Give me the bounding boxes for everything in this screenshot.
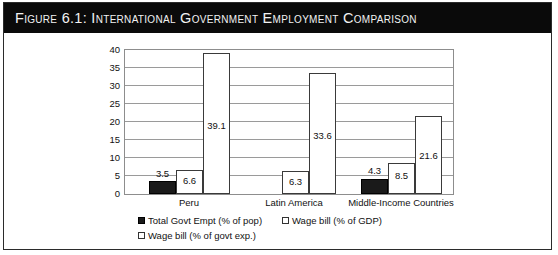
gridline-20 [125, 121, 453, 122]
y-tick-20: 20 [94, 116, 120, 127]
bar-mic-total-emp [361, 179, 388, 195]
bar-label-peru-total-emp: 3.5 [149, 168, 176, 179]
legend-item-wage-bill-govt-exp: Wage bill (% of govt exp.) [138, 230, 256, 241]
y-tick-15: 15 [94, 134, 120, 145]
x-category-peru: Peru [179, 197, 199, 208]
y-tick-5: 5 [94, 170, 120, 181]
figure-title-banner: Figure 6.1: International Government Emp… [4, 3, 551, 33]
gridline-35 [125, 67, 453, 68]
bar-label-latam-wage-gdp: 6.3 [282, 176, 309, 187]
chart-legend: Total Govt Empt (% of pop) Wage bill (% … [4, 215, 551, 249]
bar-label-mic-wage-gdp: 8.5 [388, 170, 415, 181]
legend-swatch-light-exp-icon [138, 232, 145, 239]
bar-label-mic-wage-exp: 21.6 [415, 150, 442, 161]
gridline-15 [125, 139, 453, 140]
legend-swatch-light-gdp-icon [282, 217, 289, 224]
bar-peru-total-emp [149, 181, 176, 194]
gridline-25 [125, 103, 453, 104]
y-tick-25: 25 [94, 98, 120, 109]
legend-label-wage-bill-gdp: Wage bill (% of GDP) [292, 215, 382, 226]
chart-canvas: 0 5 10 15 20 25 30 35 40 3.5 6.6 39.1 [4, 33, 551, 249]
legend-label-total-govt-emp: Total Govt Empt (% of pop) [148, 215, 262, 226]
x-category-middle-income: Middle-Income Countries [348, 197, 454, 208]
y-tick-30: 30 [94, 80, 120, 91]
y-tick-10: 10 [94, 152, 120, 163]
legend-item-total-govt-emp: Total Govt Empt (% of pop) [138, 215, 262, 226]
page-title: Figure 6.1: International Government Emp… [15, 10, 417, 26]
bar-label-peru-wage-gdp: 6.6 [176, 175, 203, 186]
legend-swatch-dark-icon [138, 217, 145, 224]
y-axis: 0 5 10 15 20 25 30 35 40 [90, 49, 120, 193]
bar-label-mic-total-emp: 4.3 [361, 165, 388, 176]
legend-item-wage-bill-gdp: Wage bill (% of GDP) [282, 215, 382, 226]
figure-container: Figure 6.1: International Government Emp… [3, 2, 552, 250]
gridline-30 [125, 85, 453, 86]
bar-label-latam-wage-exp: 33.6 [309, 130, 336, 141]
x-category-latin-america: Latin America [265, 197, 323, 208]
y-tick-0: 0 [94, 188, 120, 199]
legend-label-wage-bill-govt-exp: Wage bill (% of govt exp.) [148, 230, 256, 241]
plot-area: 3.5 6.6 39.1 6.3 33.6 4.3 8.5 21.6 [124, 49, 454, 195]
bar-label-peru-wage-exp: 39.1 [203, 120, 230, 131]
y-tick-35: 35 [94, 62, 120, 73]
gridline-10 [125, 157, 453, 158]
y-tick-40: 40 [94, 44, 120, 55]
